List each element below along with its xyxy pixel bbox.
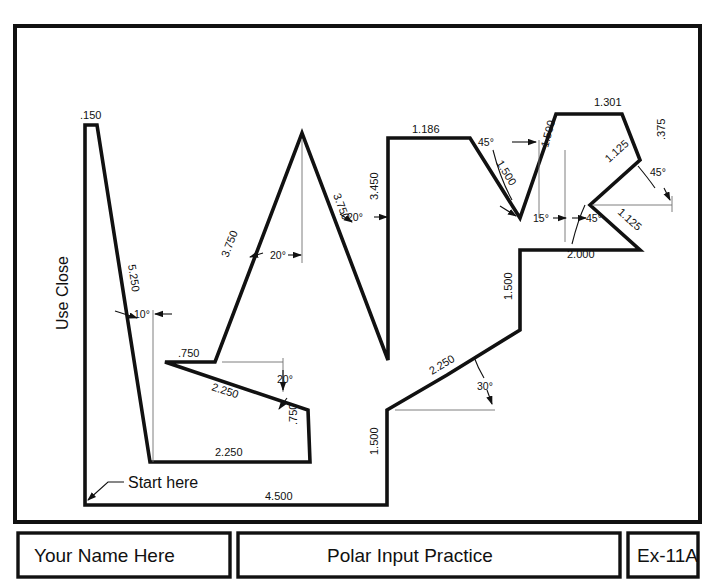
dim-bottom-4500: 4.500: [265, 490, 293, 502]
dim-vertical-1500-mid: 1.500: [502, 272, 514, 300]
dim-base-2000: 2.000: [567, 248, 595, 260]
dim-angle-15: 15°: [533, 212, 549, 224]
drawing-page: .150 Use Close 5.250 10° .750 2.250 20° …: [0, 0, 716, 586]
dim-long-left-side: 5.250: [126, 263, 142, 292]
dim-riser-1500: 1.500: [538, 119, 557, 149]
dim-peak-left-side: 3.750: [219, 229, 240, 259]
leader-45-right-tick: [664, 188, 670, 200]
leader-start-here: [88, 482, 124, 500]
dim-angle-45-upper: 45°: [478, 136, 494, 148]
dim-right-375: .375: [655, 119, 667, 140]
dim-slope-2250-upper: 2.250: [210, 380, 240, 400]
dim-zig-angle-45-upper: 45°: [650, 166, 666, 178]
note-start-here: Start here: [128, 474, 198, 491]
title-block-exercise-id: Ex-11A: [637, 545, 698, 566]
dim-shelf-750: .750: [178, 347, 199, 359]
profile-outline: [85, 114, 640, 505]
title-block-name: Your Name Here: [34, 545, 175, 566]
dim-peak-left-angle: 20°: [270, 249, 286, 261]
leader-30deg-arc: [474, 357, 484, 378]
dim-slope-angle-20-lower: 20°: [277, 373, 293, 385]
dim-top-spike-width: .150: [80, 109, 101, 121]
dim-bottom-2250: 2.250: [215, 446, 243, 458]
title-block-title: Polar Input Practice: [327, 545, 493, 566]
dim-vertical-1500-bottom: 1.500: [368, 427, 380, 455]
dim-peak-right-angle: 20°: [347, 211, 363, 223]
dim-zig-angle-45-lower: 45°: [586, 212, 602, 224]
dim-angle-30: 30°: [477, 380, 493, 392]
dim-zig-lower-1125: 1.125: [616, 206, 644, 233]
leader-45-lower-arc: [572, 205, 585, 244]
dim-vertical-3450: 3.450: [368, 172, 380, 200]
cad-drawing-sheet: .150 Use Close 5.250 10° .750 2.250 20° …: [0, 0, 716, 586]
dim-top-1186: 1.186: [412, 123, 440, 135]
dim-left-angle: 10°: [134, 308, 150, 320]
dim-zig-upper-1125: 1.125: [602, 137, 630, 164]
dim-right-750: .750: [287, 404, 299, 425]
leader-30deg-tick: [487, 390, 492, 404]
dim-top-1301: 1.301: [594, 96, 622, 108]
note-use-close: Use Close: [54, 256, 71, 330]
